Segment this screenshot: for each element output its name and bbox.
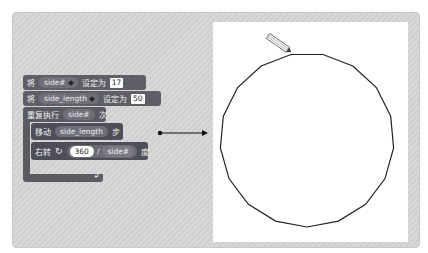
rotate-clockwise-icon: ↻ xyxy=(55,146,63,156)
dropdown-arrow-icon xyxy=(89,96,95,102)
block-label: 重复执行 xyxy=(27,109,59,120)
block-label: 设定为 xyxy=(82,77,106,88)
value-input[interactable]: 50 xyxy=(131,94,145,104)
variable-dropdown[interactable]: side# xyxy=(39,77,78,88)
set-side-count-block[interactable]: 将 side# 设定为 17 xyxy=(23,75,146,90)
repeat-block-side xyxy=(23,121,30,176)
block-label: 度 xyxy=(141,146,149,157)
stage[interactable] xyxy=(213,22,408,242)
block-label: 将 xyxy=(27,77,35,88)
block-label: 右转 xyxy=(35,146,51,157)
operator-symbol: / xyxy=(97,147,100,156)
block-label: 步 xyxy=(112,126,120,137)
variable-dropdown[interactable]: side_length xyxy=(39,93,99,104)
block-label: 将 xyxy=(27,93,35,104)
block-label: 次 xyxy=(99,109,107,120)
denominator-reporter[interactable]: side# xyxy=(102,146,134,157)
turn-right-block[interactable]: 右转 ↻ 360 / side# 度 xyxy=(31,142,148,160)
loop-arrow-icon: ↲ xyxy=(93,171,100,180)
arrow-right-icon xyxy=(157,122,209,141)
set-side-length-block[interactable]: 将 side_length 设定为 50 xyxy=(23,91,161,106)
move-block[interactable]: 移动 side_length 步 xyxy=(31,123,123,140)
steps-reporter[interactable]: side_length xyxy=(55,126,108,137)
pencil-icon xyxy=(266,33,292,54)
variable-name: side# xyxy=(44,78,66,87)
block-label: 设定为 xyxy=(103,93,127,104)
numerator-input[interactable]: 360 xyxy=(70,146,94,157)
block-label: 移动 xyxy=(35,126,51,137)
polygon-drawing xyxy=(213,22,408,242)
repeat-block-footer: ↲ xyxy=(23,174,103,182)
count-reporter[interactable]: side# xyxy=(63,109,95,120)
value-input[interactable]: 17 xyxy=(110,78,124,88)
divide-operator[interactable]: 360 / side# xyxy=(67,145,138,158)
repeat-block[interactable]: 重复执行 side# 次 xyxy=(23,107,106,122)
variable-name: side_length xyxy=(44,94,87,103)
dropdown-arrow-icon xyxy=(68,80,74,86)
